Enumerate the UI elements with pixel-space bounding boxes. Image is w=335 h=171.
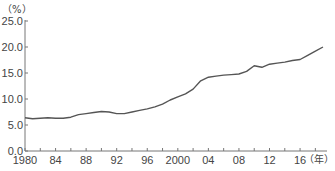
x-tick-label: 2000 <box>166 154 190 166</box>
x-tick-label: 84 <box>49 154 61 166</box>
y-tick-label: 5.0 <box>8 119 23 131</box>
x-tick-label: 08 <box>233 154 245 166</box>
x-tick-label: 12 <box>263 154 275 166</box>
x-tick-label: 1980 <box>13 154 37 166</box>
x-tick-label: 92 <box>111 154 123 166</box>
y-tick-label: 15.0 <box>2 67 23 79</box>
data-series-line <box>25 47 323 119</box>
x-tick-label: 88 <box>80 154 92 166</box>
y-tick-label: 20.0 <box>2 41 23 53</box>
y-axis-ticks: 0.05.010.015.020.025.0 <box>2 15 28 157</box>
y-tick-label: 25.0 <box>2 15 23 27</box>
line-chart: （%） 0.05.010.015.020.025.0 1980848892962… <box>0 0 335 171</box>
x-unit-label: （年） <box>304 153 334 165</box>
y-unit-label: （%） <box>2 4 32 15</box>
x-tick-label: 04 <box>202 154 214 166</box>
x-tick-label: 96 <box>141 154 153 166</box>
y-tick-label: 10.0 <box>2 93 23 105</box>
